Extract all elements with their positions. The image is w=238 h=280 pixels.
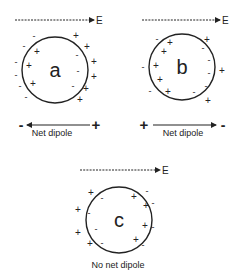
negative-charge: - bbox=[25, 92, 28, 102]
positive-charge: + bbox=[153, 60, 159, 71]
positive-charge: + bbox=[88, 187, 94, 198]
atom-letter: a bbox=[49, 59, 61, 81]
negative-charge: - bbox=[88, 208, 91, 218]
no-dipole-caption: No net dipole bbox=[91, 260, 144, 270]
positive-charge: + bbox=[75, 227, 81, 238]
field-label: E bbox=[96, 15, 103, 26]
panel-a: Ea-+-++--++--+-+-+-+-+Net dipole bbox=[15, 15, 104, 138]
dipole-positive-sign: + bbox=[92, 116, 101, 133]
panel-b: Eb-++-+--++-+--+-++-Net dipole bbox=[140, 15, 229, 138]
dipole-negative-sign: - bbox=[19, 117, 24, 133]
negative-charge: - bbox=[95, 224, 98, 234]
positive-charge: + bbox=[34, 46, 40, 57]
positive-charge: + bbox=[91, 71, 97, 82]
positive-charge: + bbox=[77, 94, 83, 105]
positive-charge: + bbox=[161, 46, 167, 57]
positive-charge: + bbox=[204, 34, 210, 45]
positive-charge: + bbox=[133, 234, 139, 245]
negative-charge: - bbox=[15, 57, 18, 67]
positive-charge: + bbox=[142, 220, 148, 231]
negative-charge: - bbox=[142, 62, 145, 72]
positive-charge: + bbox=[83, 83, 89, 94]
positive-charge: + bbox=[131, 191, 137, 202]
negative-charge: - bbox=[208, 55, 211, 65]
negative-charge: - bbox=[15, 70, 18, 80]
positive-charge: + bbox=[205, 95, 211, 106]
positive-charge: + bbox=[75, 204, 81, 215]
positive-charge: + bbox=[165, 86, 171, 97]
positive-charge: + bbox=[84, 41, 90, 52]
field-label: E bbox=[162, 165, 169, 176]
negative-charge: - bbox=[23, 41, 26, 51]
positive-charge: + bbox=[26, 60, 32, 71]
negative-charge: - bbox=[152, 222, 155, 232]
dipole-negative-sign: - bbox=[221, 117, 226, 133]
negative-charge: - bbox=[101, 193, 104, 203]
negative-charge: - bbox=[101, 238, 104, 248]
dipole-label: Net dipole bbox=[32, 128, 73, 138]
negative-charge: - bbox=[19, 81, 22, 91]
positive-charge: + bbox=[30, 78, 36, 89]
negative-charge: - bbox=[77, 66, 80, 76]
dipole-positive-sign: + bbox=[140, 116, 149, 133]
negative-charge: - bbox=[72, 81, 75, 91]
negative-charge: - bbox=[202, 43, 205, 53]
field-label: E bbox=[222, 15, 229, 26]
positive-charge: + bbox=[73, 30, 79, 41]
atom-letter: b bbox=[176, 56, 187, 78]
negative-charge: - bbox=[142, 240, 145, 250]
positive-charge: + bbox=[87, 238, 93, 249]
atom-letter: c bbox=[114, 209, 124, 231]
positive-charge: + bbox=[219, 65, 225, 76]
panel-c: Ec+-+--++--+-++-+-No net dipole bbox=[75, 165, 169, 270]
negative-charge: - bbox=[76, 50, 79, 60]
negative-charge: - bbox=[156, 34, 159, 44]
positive-charge: + bbox=[143, 200, 149, 211]
negative-charge: - bbox=[146, 186, 149, 196]
positive-charge: + bbox=[157, 74, 163, 85]
dipole-label: Net dipole bbox=[163, 128, 204, 138]
negative-charge: - bbox=[149, 86, 152, 96]
positive-charge: + bbox=[167, 37, 173, 48]
dipole-diagram: Ea-+-++--++--+-+-+-+-+Net dipoleEb-++-+-… bbox=[0, 0, 238, 280]
negative-charge: - bbox=[33, 31, 36, 41]
positive-charge: + bbox=[91, 56, 97, 67]
negative-charge: - bbox=[208, 68, 211, 78]
negative-charge: - bbox=[205, 81, 208, 91]
negative-charge: - bbox=[152, 198, 155, 208]
negative-charge: - bbox=[193, 87, 196, 97]
